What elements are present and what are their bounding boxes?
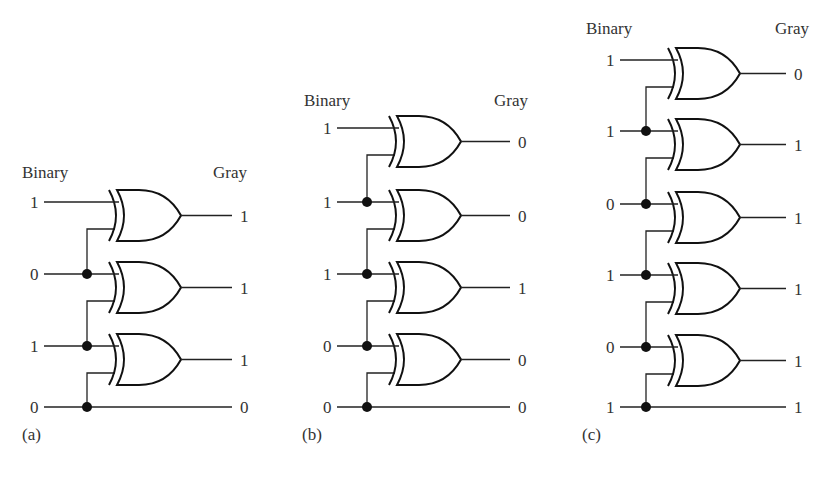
gray-bit: 1 [794, 209, 803, 228]
circuit-c: BinaryGray011111101011(c) [582, 19, 809, 444]
junction-dot [362, 402, 372, 412]
binary-bit: 0 [323, 337, 332, 356]
xor-gate [646, 335, 786, 407]
gray-header: Gray [213, 163, 247, 182]
junction-dot [641, 199, 651, 209]
binary-bit: 1 [606, 266, 615, 285]
gray-code-diagram: BinaryGray11110100(a)BinaryGray001011100… [0, 0, 833, 489]
figure-caption-c: (c) [582, 425, 601, 444]
binary-header: Binary [304, 91, 351, 110]
junction-dot [641, 402, 651, 412]
gray-header: Gray [494, 91, 528, 110]
circuit-b: BinaryGray0010111000(b) [302, 91, 528, 444]
gray-bit: 1 [794, 352, 803, 371]
gray-header: Gray [775, 19, 809, 38]
gray-bit: 1 [794, 136, 803, 155]
gray-bit: 0 [240, 398, 249, 417]
binary-bit: 0 [606, 338, 615, 357]
gray-bit: 0 [518, 207, 527, 226]
junction-dot [641, 270, 651, 280]
binary-bit: 1 [606, 122, 615, 141]
xor-gate [367, 334, 510, 407]
gray-bit: 1 [794, 398, 803, 417]
junction-dot [362, 197, 372, 207]
binary-bit: 1 [323, 265, 332, 284]
gray-bit: 1 [518, 279, 527, 298]
junction-dot [362, 269, 372, 279]
figure-caption-a: (a) [22, 425, 41, 444]
binary-bit: 1 [30, 193, 39, 212]
figure-caption-b: (b) [302, 425, 322, 444]
binary-bit: 0 [323, 398, 332, 417]
junction-dot [641, 126, 651, 136]
gray-bit: 0 [518, 398, 527, 417]
binary-bit: 1 [30, 337, 39, 356]
binary-header: Binary [22, 163, 69, 182]
junction-dot [82, 269, 92, 279]
circuit-a: BinaryGray11110100(a) [22, 163, 249, 444]
junction-dot [641, 342, 651, 352]
gray-bit: 1 [240, 351, 249, 370]
junction-dot [362, 341, 372, 351]
gray-bit: 1 [794, 280, 803, 299]
binary-bit: 1 [606, 51, 615, 70]
gray-bit: 1 [240, 279, 249, 298]
xor-gate [87, 334, 232, 407]
gray-bit: 1 [240, 207, 249, 226]
xor-gate [367, 116, 510, 202]
binary-header: Binary [586, 19, 633, 38]
xor-gate [646, 119, 786, 204]
binary-bit: 1 [323, 193, 332, 212]
gray-bit: 0 [794, 65, 803, 84]
gray-bit: 0 [518, 351, 527, 370]
junction-dot [82, 341, 92, 351]
binary-bit: 1 [323, 119, 332, 138]
binary-bit: 1 [606, 398, 615, 417]
gray-bit: 0 [518, 133, 527, 152]
binary-bit: 0 [606, 195, 615, 214]
junction-dot [82, 402, 92, 412]
binary-bit: 0 [30, 398, 39, 417]
binary-bit: 0 [30, 265, 39, 284]
